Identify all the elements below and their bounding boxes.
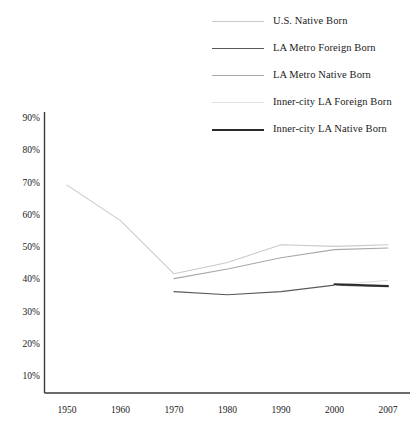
series-line-la-metro-foreign-born — [174, 285, 388, 295]
series-line-u-s-native-born — [67, 185, 388, 274]
series-line-la-metro-native-born — [174, 248, 388, 279]
line-chart: U.S. Native Born LA Metro Foreign Born L… — [0, 0, 419, 433]
series-lines — [67, 185, 388, 295]
axis-lines — [45, 112, 411, 393]
plot-area — [0, 0, 419, 433]
